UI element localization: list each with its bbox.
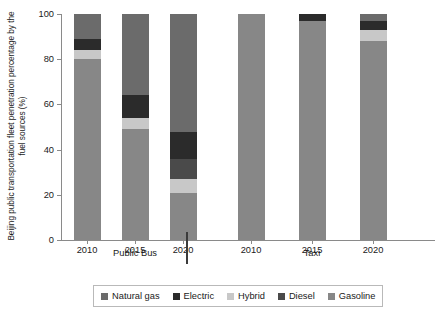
y-tick-mark xyxy=(57,195,61,196)
plot-area: 020406080100 201020152020201020152020 xyxy=(61,14,435,240)
y-tick-label: 80 xyxy=(44,54,54,64)
bar-segment-natural-gas[interactable] xyxy=(74,14,101,39)
bar-segment-electric[interactable] xyxy=(299,14,326,21)
y-tick-mark xyxy=(57,104,61,105)
x-tick-mark xyxy=(373,240,374,244)
y-tick-label: 40 xyxy=(44,145,54,155)
bar-segment-hybrid[interactable] xyxy=(360,30,387,41)
bar-segment-electric[interactable] xyxy=(360,21,387,30)
y-tick-mark xyxy=(57,14,61,15)
chart-figure: Beijing public transportation fleet pene… xyxy=(0,0,435,312)
legend-swatch-icon xyxy=(101,293,108,300)
bar-segment-hybrid[interactable] xyxy=(74,50,101,59)
x-tick-mark xyxy=(312,240,313,244)
legend-swatch-icon xyxy=(227,293,234,300)
x-tick-label: 2010 xyxy=(77,245,98,255)
bar-segment-hybrid[interactable] xyxy=(170,179,197,193)
legend-item[interactable]: Hybrid xyxy=(227,291,265,301)
x-tick-label: 2010 xyxy=(241,245,262,255)
bar-segment-electric[interactable] xyxy=(74,39,101,50)
bar-segment-natural-gas[interactable] xyxy=(360,14,387,21)
bar-segment-gasoline[interactable] xyxy=(238,14,265,240)
legend-item[interactable]: Diesel xyxy=(278,291,315,301)
legend-item[interactable]: Natural gas xyxy=(101,291,160,301)
bar-segment-electric[interactable] xyxy=(170,132,197,159)
group-label: Public Bus xyxy=(113,248,157,258)
group-divider xyxy=(186,232,188,264)
stacked-bar[interactable] xyxy=(238,14,265,240)
legend-label: Natural gas xyxy=(112,291,160,301)
chart-legend: Natural gasElectricHybridDieselGasoline xyxy=(93,285,383,307)
bar-segment-gasoline[interactable] xyxy=(74,59,101,240)
x-tick-mark xyxy=(87,240,88,244)
x-tick-label: 2020 xyxy=(363,245,384,255)
bar-segment-electric[interactable] xyxy=(122,95,149,118)
legend-swatch-icon xyxy=(328,293,335,300)
x-tick-mark xyxy=(251,240,252,244)
bar-segment-natural-gas[interactable] xyxy=(170,14,197,132)
x-tick-mark xyxy=(183,240,184,244)
legend-item[interactable]: Gasoline xyxy=(328,291,376,301)
stacked-bar[interactable] xyxy=(170,14,197,240)
y-tick-label: 60 xyxy=(44,99,54,109)
y-tick-mark xyxy=(57,150,61,151)
legend-label: Hybrid xyxy=(238,291,265,301)
x-tick-mark xyxy=(135,240,136,244)
legend-item[interactable]: Electric xyxy=(173,291,214,301)
stacked-bar[interactable] xyxy=(299,14,326,240)
stacked-bar[interactable] xyxy=(360,14,387,240)
bar-segment-gasoline[interactable] xyxy=(170,193,197,240)
y-tick-label: 100 xyxy=(38,9,54,19)
group-label: Taxi xyxy=(304,248,321,258)
bar-segment-gasoline[interactable] xyxy=(299,21,326,240)
bar-segment-gasoline[interactable] xyxy=(360,41,387,240)
x-axis-line xyxy=(61,240,435,241)
y-tick-mark xyxy=(57,59,61,60)
y-axis-title: Beijing public transportation fleet pene… xyxy=(6,8,29,244)
bar-segment-hybrid[interactable] xyxy=(122,118,149,129)
legend-swatch-icon xyxy=(173,293,180,300)
y-tick-mark xyxy=(57,240,61,241)
y-axis-title-container: Beijing public transportation fleet pene… xyxy=(0,8,34,244)
legend-swatch-icon xyxy=(278,293,285,300)
x-tick-label: 2020 xyxy=(173,245,194,255)
bar-segment-diesel[interactable] xyxy=(170,159,197,179)
stacked-bar[interactable] xyxy=(74,14,101,240)
y-axis-line xyxy=(61,14,62,241)
y-tick-label: 0 xyxy=(49,235,54,245)
bar-segment-natural-gas[interactable] xyxy=(122,14,149,95)
legend-label: Diesel xyxy=(289,291,315,301)
bar-segment-gasoline[interactable] xyxy=(122,129,149,240)
stacked-bar[interactable] xyxy=(122,14,149,240)
legend-label: Electric xyxy=(184,291,214,301)
legend-label: Gasoline xyxy=(339,291,376,301)
y-tick-label: 20 xyxy=(44,190,54,200)
